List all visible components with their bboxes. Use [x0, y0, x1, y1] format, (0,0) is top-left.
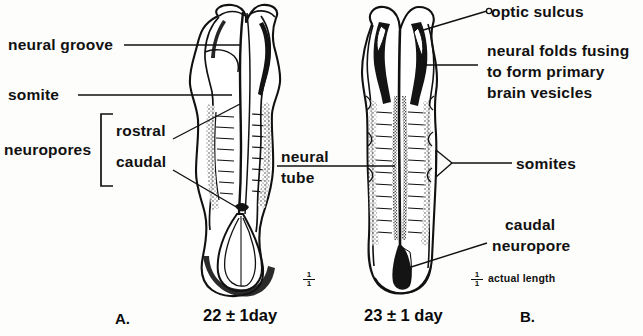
leader-somites-fork-lower — [436, 163, 452, 177]
scale-fraction-a-denominator: 1 — [303, 279, 315, 288]
label-caudal: caudal — [116, 153, 166, 171]
embryo-drawing-panel-a — [190, 5, 280, 297]
scale-fraction-b-numerator: 1 — [471, 271, 483, 279]
scale-fraction-a-numerator: 1 — [303, 271, 315, 279]
label-neural-tube-line1: neural — [281, 148, 329, 166]
scale-fraction-panel-b: 1 1 — [471, 271, 483, 288]
leader-rostral — [173, 104, 240, 139]
label-neural-folds-line1: neural folds fusing — [487, 42, 629, 60]
neuropores-bracket — [101, 114, 113, 186]
panel-letter-b: B. — [520, 308, 535, 325]
caption-panel-a: 22 ± 1day — [203, 306, 277, 325]
label-neuropores: neuropores — [4, 141, 91, 159]
label-neural-folds-line3: brain vesicles — [487, 84, 592, 102]
caption-panel-b: 23 ± 1 day — [364, 306, 443, 325]
label-neural-folds-line2: to form primary — [487, 63, 605, 81]
embryo-drawing-panel-b — [362, 7, 437, 294]
label-rostral: rostral — [116, 122, 166, 140]
scale-fraction-b-denominator: 1 — [471, 279, 483, 288]
label-somites: somites — [516, 155, 576, 173]
label-somite: somite — [8, 86, 59, 104]
leader-somites-fork-upper — [436, 150, 452, 163]
label-actual-length: actual length — [488, 272, 555, 284]
label-caudal-neuropore-line2: neuropore — [492, 237, 570, 255]
label-neural-groove: neural groove — [8, 36, 113, 54]
leader-caudal — [173, 170, 238, 208]
embryo-neurulation-figure: neural groove somite neuropores rostral … — [0, 0, 643, 336]
label-optic-sulcus: optic sulcus — [491, 3, 584, 21]
leader-optic-sulcus — [420, 11, 487, 31]
label-neural-tube-line2: tube — [281, 169, 315, 187]
panel-letter-a: A. — [115, 310, 130, 327]
leader-caudal-neuropore — [408, 243, 487, 268]
scale-fraction-panel-a: 1 1 — [303, 271, 315, 288]
label-caudal-neuropore-line1: caudal — [505, 216, 555, 234]
